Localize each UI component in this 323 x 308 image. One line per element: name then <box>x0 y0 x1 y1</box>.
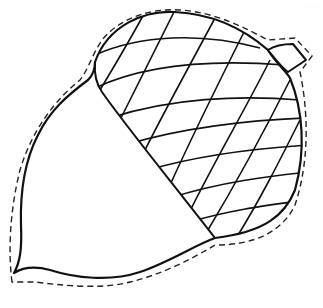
cap-edge <box>95 62 215 238</box>
acorn-illustration <box>0 0 323 308</box>
acorn-stem <box>268 44 306 72</box>
